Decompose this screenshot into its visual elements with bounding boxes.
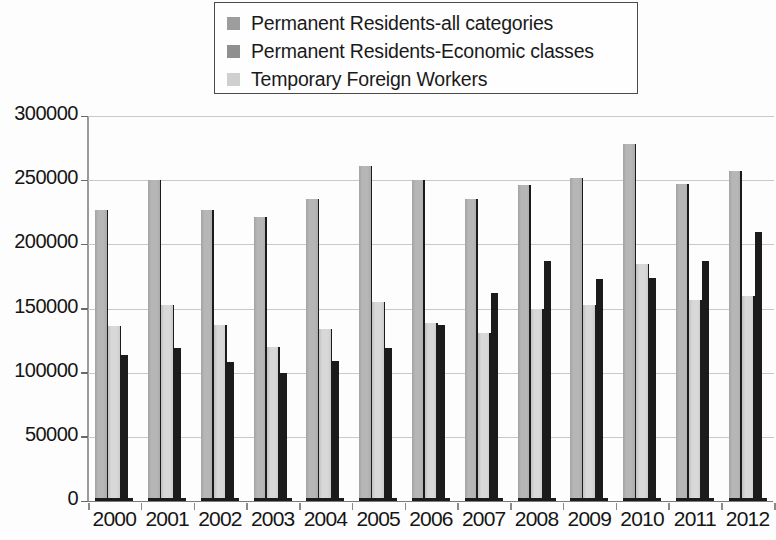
bar bbox=[755, 232, 762, 502]
bar bbox=[332, 361, 339, 501]
bar bbox=[583, 305, 595, 501]
bar bbox=[267, 347, 279, 501]
bar-edge-shadow bbox=[384, 302, 386, 501]
chart-legend: Permanent Residents-all categories Perma… bbox=[214, 2, 638, 94]
bar-edge-shadow bbox=[160, 180, 162, 501]
bar bbox=[676, 184, 688, 501]
bar bbox=[465, 199, 477, 501]
group-baseline bbox=[254, 498, 292, 501]
x-axis-labels: 2000200120022003200420052006200720082009… bbox=[88, 503, 774, 539]
bar-group bbox=[246, 116, 299, 501]
bar bbox=[201, 210, 213, 501]
bar-edge-shadow bbox=[700, 300, 702, 501]
bar bbox=[623, 144, 635, 501]
bar-edge-shadow bbox=[753, 296, 755, 501]
y-axis-tick bbox=[81, 116, 88, 118]
group-baseline bbox=[729, 498, 767, 501]
x-axis-tick-label: 2009 bbox=[563, 507, 616, 531]
bar-edge-shadow bbox=[635, 144, 637, 501]
bar bbox=[570, 178, 582, 501]
y-axis-tick bbox=[81, 244, 88, 246]
y-axis-tick bbox=[81, 308, 88, 310]
bar bbox=[280, 373, 287, 501]
y-axis-tick-label: 100000 bbox=[2, 359, 78, 382]
legend-item: Temporary Foreign Workers bbox=[227, 65, 629, 93]
y-axis-tick bbox=[81, 436, 88, 438]
y-axis-tick bbox=[81, 372, 88, 374]
bar bbox=[729, 171, 741, 501]
bar-group bbox=[510, 116, 563, 501]
bar bbox=[359, 166, 371, 501]
legend-item: Permanent Residents-all categories bbox=[227, 9, 629, 37]
x-axis-tick-label: 2008 bbox=[510, 507, 563, 531]
bar bbox=[478, 333, 490, 501]
x-axis-tick-label: 2005 bbox=[352, 507, 405, 531]
bar-edge-shadow bbox=[120, 326, 122, 501]
x-axis-tick-label: 2004 bbox=[299, 507, 352, 531]
bar-edge-shadow bbox=[265, 217, 267, 501]
bar-edge-shadow bbox=[582, 178, 584, 501]
y-axis-tick bbox=[81, 180, 88, 182]
bar bbox=[649, 278, 656, 501]
y-axis-tick-label: 250000 bbox=[2, 166, 78, 189]
bar-edge-shadow bbox=[489, 333, 491, 501]
group-baseline bbox=[676, 498, 714, 501]
y-axis-tick-label: 0 bbox=[2, 487, 78, 510]
bar-edge-shadow bbox=[529, 185, 531, 501]
x-axis-tick-label: 2007 bbox=[457, 507, 510, 531]
bar bbox=[148, 180, 160, 501]
bar-group bbox=[405, 116, 458, 501]
group-baseline bbox=[465, 498, 503, 501]
legend-item-label: Temporary Foreign Workers bbox=[251, 69, 487, 89]
bar-group bbox=[668, 116, 721, 501]
bar bbox=[702, 261, 709, 501]
bar-edge-shadow bbox=[225, 325, 227, 501]
bar-edge-shadow bbox=[278, 347, 280, 501]
bar-group bbox=[563, 116, 616, 501]
bar bbox=[531, 309, 543, 502]
bar-edge-shadow bbox=[212, 210, 214, 501]
bar-chart: Permanent Residents-all categories Perma… bbox=[0, 0, 776, 540]
group-baseline bbox=[412, 498, 450, 501]
bar-edge-shadow bbox=[595, 305, 597, 501]
bar bbox=[596, 279, 603, 501]
group-baseline bbox=[518, 498, 556, 501]
bar-edge-shadow bbox=[318, 199, 320, 501]
group-baseline bbox=[148, 498, 186, 501]
bar bbox=[161, 305, 173, 501]
bar bbox=[385, 348, 392, 501]
bar-edge-shadow bbox=[173, 305, 175, 501]
bar bbox=[636, 264, 648, 501]
legend-item-label: Permanent Residents-Economic classes bbox=[251, 41, 594, 61]
group-baseline bbox=[306, 498, 344, 501]
bar-edge-shadow bbox=[687, 184, 689, 501]
bar-edge-shadow bbox=[331, 329, 333, 501]
bar-edge-shadow bbox=[436, 323, 438, 501]
bar-group bbox=[88, 116, 141, 501]
bar bbox=[306, 199, 318, 501]
y-axis-tick-label: 300000 bbox=[2, 102, 78, 125]
bar-edge-shadow bbox=[371, 166, 373, 501]
group-baseline bbox=[570, 498, 608, 501]
bar-group bbox=[721, 116, 774, 501]
x-axis-tick-label: 2003 bbox=[246, 507, 299, 531]
bar-group bbox=[352, 116, 405, 501]
legend-item-label: Permanent Residents-all categories bbox=[251, 13, 553, 33]
bar bbox=[121, 355, 128, 501]
bar bbox=[438, 325, 445, 501]
group-baseline bbox=[95, 498, 133, 501]
legend-item: Permanent Residents-Economic classes bbox=[227, 37, 629, 65]
x-axis-tick-label: 2010 bbox=[616, 507, 669, 531]
bar-group bbox=[616, 116, 669, 501]
legend-swatch-icon bbox=[227, 17, 240, 30]
bar bbox=[372, 302, 384, 501]
legend-swatch-icon bbox=[227, 73, 240, 86]
bar bbox=[319, 329, 331, 501]
plot-area bbox=[88, 116, 774, 501]
x-axis-tick-label: 2001 bbox=[141, 507, 194, 531]
group-baseline bbox=[201, 498, 239, 501]
bar-edge-shadow bbox=[648, 264, 650, 501]
bar bbox=[518, 185, 530, 501]
bar bbox=[95, 210, 107, 501]
bar-edge-shadow bbox=[423, 180, 425, 501]
